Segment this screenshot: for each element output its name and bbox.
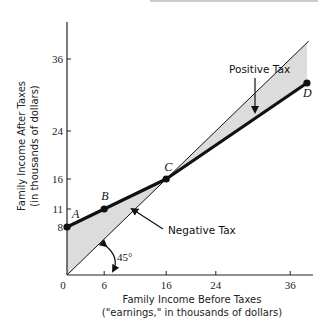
- y-tick-label: 11: [52, 203, 63, 215]
- x-tick-label: 24: [210, 279, 222, 291]
- x-tick-label: 36: [285, 279, 297, 291]
- x-axis-subtitle: ("earnings," in thousands of dollars): [102, 307, 282, 318]
- point-label-b: B: [101, 189, 109, 203]
- annotation-negative-tax: Negative Tax: [168, 224, 236, 236]
- x-tick-label: 16: [161, 279, 173, 291]
- y-tick-label: 36: [52, 53, 64, 65]
- y-tick-label: 16: [52, 173, 64, 185]
- negative-tax-arrow: [132, 209, 163, 229]
- series-lines: [67, 41, 309, 275]
- x-tick-label: 0: [60, 279, 66, 291]
- y-tick-label: 24: [52, 125, 64, 137]
- annotation-positive-tax: Positive Tax: [229, 63, 290, 75]
- y-axis-subtitle: (in thousands of dollars): [29, 85, 40, 207]
- angle-45-arc: [106, 246, 115, 271]
- angle-45-label: 45°: [117, 251, 132, 263]
- chart: 06162436811162436 ABCD Positive Tax Nega…: [0, 0, 329, 332]
- point-a: [63, 223, 70, 230]
- x-tick-label: 6: [101, 279, 107, 291]
- point-c: [163, 175, 170, 182]
- x-axis-title: Family Income Before Taxes: [123, 294, 262, 305]
- no-tax-45-degree-line: [67, 41, 309, 275]
- point-label-c: C: [164, 160, 173, 174]
- point-label-d: D: [302, 86, 312, 100]
- y-axis-title: Family Income After Taxes: [16, 81, 27, 211]
- point-b: [101, 205, 108, 212]
- y-tick-label: 8: [58, 221, 64, 233]
- point-label-a: A: [71, 207, 80, 221]
